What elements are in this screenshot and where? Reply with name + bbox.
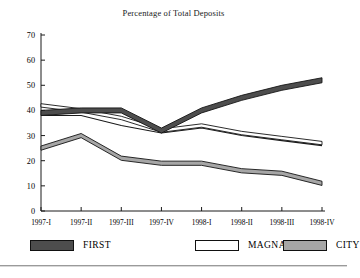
y-tick-label: 20 [27, 157, 35, 166]
legend-label-first: FIRST [83, 240, 111, 250]
series-line-city [41, 133, 322, 185]
x-tick-label: 1997-III [109, 218, 134, 227]
chart-legend: FIRSTMAGNACITY [0, 236, 347, 256]
legend-swatch-first [30, 240, 74, 251]
y-tick-label: 40 [27, 106, 35, 115]
plot-svg: 010203040506070 [0, 26, 347, 218]
x-tick-label: 1997-II [70, 218, 92, 227]
series-lines [41, 78, 322, 186]
y-tick-label: 10 [27, 182, 35, 191]
chart-title: Percentage of Total Deposits [0, 8, 347, 18]
y-tick-label: 50 [27, 81, 35, 90]
x-tick-label: 1997-I [31, 218, 51, 227]
legend-item-city[interactable]: CITY [283, 236, 360, 254]
x-tick-label: 1998-II [231, 218, 253, 227]
legend-label-city: CITY [336, 240, 360, 250]
x-tick-label: 1998-III [270, 218, 295, 227]
legend-label-magna: MAGNA [248, 240, 286, 250]
bottom-divider-shadow [0, 266, 347, 267]
x-tick-label: 1998-I [192, 218, 212, 227]
x-axis [41, 207, 325, 211]
y-tick-label: 70 [27, 31, 35, 40]
legend-item-first[interactable]: FIRST [30, 236, 111, 254]
plot-area: 010203040506070 [0, 26, 347, 218]
y-tick-label: 30 [27, 132, 35, 141]
legend-swatch-magna [195, 240, 239, 251]
series-line-first [41, 78, 322, 133]
y-axis: 010203040506070 [27, 31, 45, 216]
x-tick-label: 1997-IV [149, 218, 174, 227]
y-tick-label: 60 [27, 56, 35, 65]
legend-swatch-city [283, 240, 327, 251]
x-tick-label: 1998-IV [309, 218, 334, 227]
y-tick-label: 0 [31, 207, 35, 216]
x-axis-tick-labels: 1997-I1997-II1997-III1997-IV1998-I1998-I… [0, 218, 347, 232]
legend-item-magna[interactable]: MAGNA [195, 236, 286, 254]
